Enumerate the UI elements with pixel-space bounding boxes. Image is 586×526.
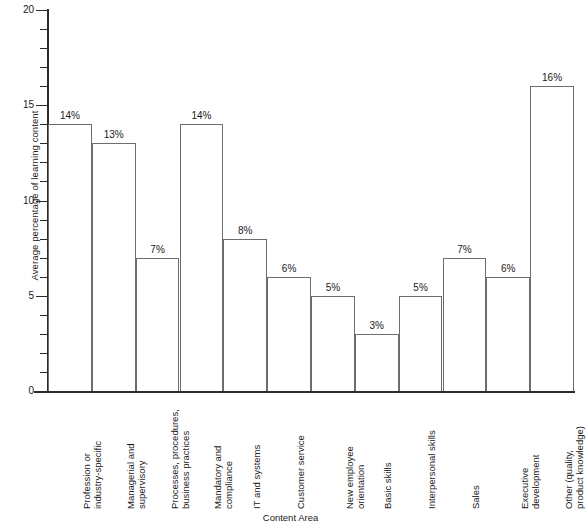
bar-value-label: 13%	[80, 130, 148, 140]
x-axis-category-label: Interpersonal skills	[426, 397, 437, 509]
y-axis-minor-tick	[40, 67, 48, 68]
y-axis-tick-label: 20	[0, 5, 34, 15]
y-axis-minor-tick	[40, 239, 48, 240]
y-axis-tick-label: 0	[0, 386, 34, 396]
y-axis-minor-tick	[40, 48, 48, 49]
x-axis-category-label: IT and systems	[251, 397, 262, 509]
y-axis-major-tick	[36, 105, 48, 106]
bar	[92, 143, 136, 391]
y-axis-minor-tick	[40, 86, 48, 87]
bar-value-label: 8%	[211, 226, 279, 236]
x-axis-category-label: Customer service	[295, 397, 306, 509]
bar-value-label: 3%	[343, 321, 411, 331]
bar	[355, 334, 399, 391]
y-axis-minor-tick	[40, 143, 48, 144]
y-axis-major-tick	[36, 296, 48, 297]
bar	[223, 239, 267, 391]
y-axis-minor-tick	[40, 29, 48, 30]
bar	[443, 258, 487, 391]
x-axis-category-label: New employee orientation	[344, 397, 366, 509]
bar	[267, 277, 311, 391]
bar	[136, 258, 180, 391]
y-axis-major-tick	[36, 10, 48, 11]
x-axis-category-label: Basic skills	[382, 397, 393, 509]
bar-value-label: 5%	[299, 283, 367, 293]
y-axis-major-tick	[36, 391, 48, 392]
x-axis-category-label: Executive development	[519, 397, 541, 509]
y-axis-major-tick	[36, 201, 48, 202]
y-axis-tick-label: 10	[0, 196, 34, 206]
y-axis-minor-tick	[40, 220, 48, 221]
y-axis-minor-tick	[40, 124, 48, 125]
bar-value-label: 16%	[518, 73, 586, 83]
y-axis-tick-label: 15	[0, 100, 34, 110]
y-axis-minor-tick	[40, 277, 48, 278]
bar	[311, 296, 355, 391]
bar	[180, 124, 224, 391]
y-axis-minor-tick	[40, 315, 48, 316]
x-axis-category-label: Processes, procedures, business practice…	[169, 397, 191, 509]
bar-value-label: 14%	[36, 111, 104, 121]
bar	[530, 86, 574, 391]
x-axis-category-label: Profession or industry-specific	[81, 397, 103, 509]
x-axis-category-label: Sales	[470, 397, 481, 509]
x-axis-line	[34, 391, 575, 393]
y-axis-minor-tick	[40, 353, 48, 354]
y-axis-minor-tick	[40, 162, 48, 163]
bar-value-label: 14%	[168, 111, 236, 121]
bar-value-label: 5%	[387, 283, 455, 293]
bar-value-label: 7%	[124, 245, 192, 255]
bar-value-label: 6%	[255, 264, 323, 274]
bar-value-label: 6%	[474, 264, 542, 274]
x-axis-category-label: Managerial and supervisory	[125, 397, 147, 509]
bar	[48, 124, 92, 391]
y-axis-minor-tick	[40, 181, 48, 182]
y-axis-minor-tick	[40, 258, 48, 259]
x-axis-title: Content Area	[0, 512, 581, 523]
bar	[399, 296, 443, 391]
y-axis-minor-tick	[40, 372, 48, 373]
x-axis-category-label: Mandatory and compliance	[212, 397, 234, 509]
bar	[486, 277, 530, 391]
y-axis-minor-tick	[40, 334, 48, 335]
x-axis-category-label: Other (quality, product knowledge)	[563, 397, 585, 509]
y-axis-tick-label: 5	[0, 291, 34, 301]
bar-value-label: 7%	[431, 245, 499, 255]
